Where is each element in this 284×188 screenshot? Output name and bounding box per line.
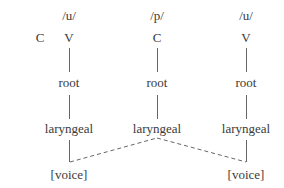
col3-laryngeal-node: laryngeal (222, 122, 270, 136)
col1-root-node: root (59, 76, 80, 90)
dashed-edge-laryngeal2-voice1 (70, 138, 157, 162)
col1-segment-label: V (64, 31, 73, 45)
col3-root-node: root (236, 76, 257, 90)
col1-laryngeal-node: laryngeal (45, 122, 93, 136)
col1-voice-feature: [voice] (51, 168, 88, 182)
dashed-edge-laryngeal2-voice3 (157, 138, 246, 162)
col2-root-node: root (147, 76, 168, 90)
col3-segment-label: V (241, 31, 250, 45)
col3-voice-feature: [voice] (228, 168, 265, 182)
col3-phoneme-label: /u/ (239, 9, 253, 23)
tree-edges (0, 0, 284, 188)
col2-segment-label: C (153, 31, 162, 45)
col2-phoneme-label: /p/ (150, 9, 164, 23)
col1-phoneme-label: /u/ (62, 9, 76, 23)
standalone-consonant-label: C (36, 31, 45, 45)
col2-laryngeal-node: laryngeal (133, 122, 181, 136)
